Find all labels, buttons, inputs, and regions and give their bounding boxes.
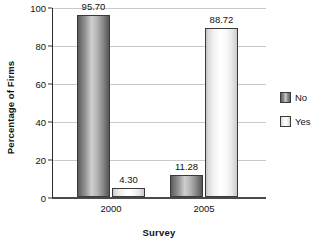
legend-label-no: No (295, 92, 307, 103)
legend-label-yes: Yes (295, 116, 311, 127)
y-axis-ticks: 100 80 60 40 20 0 (18, 8, 50, 198)
y-axis-title-text: Percentage of Firms (6, 61, 17, 154)
plot-area: 95.70 4.30 11.28 88.72 (52, 8, 266, 198)
x-tick-label-2005: 2005 (193, 203, 214, 214)
legend-item-no[interactable]: No (280, 92, 311, 103)
y-tick-label: 60 (35, 79, 46, 90)
bar-value-label: 4.30 (119, 174, 138, 185)
bar-2005-no[interactable] (170, 175, 203, 197)
x-axis-line (52, 197, 266, 199)
bar-2000-no[interactable] (77, 15, 110, 197)
y-tick-label: 100 (30, 3, 46, 14)
y-tick-label: 40 (35, 117, 46, 128)
bar-2005-yes[interactable] (205, 28, 238, 197)
bar-value-label: 95.70 (82, 1, 106, 12)
bar-value-label: 88.72 (210, 14, 234, 25)
y-tick-label: 0 (41, 193, 46, 204)
chart-legend: No Yes (280, 92, 311, 140)
bar-chart-figure: Percentage of Firms 100 80 60 40 20 0 95… (0, 0, 327, 249)
bar-2000-yes[interactable] (112, 188, 145, 197)
legend-item-yes[interactable]: Yes (280, 116, 311, 127)
y-axis-line (52, 8, 53, 198)
y-tick-label: 80 (35, 41, 46, 52)
legend-swatch-yes-icon (280, 116, 291, 127)
bar-value-label: 11.28 (175, 161, 198, 172)
y-tick-label: 20 (35, 155, 46, 166)
legend-swatch-no-icon (280, 92, 291, 103)
x-tick-label-2000: 2000 (100, 203, 121, 214)
x-axis-title: Survey (52, 227, 266, 238)
